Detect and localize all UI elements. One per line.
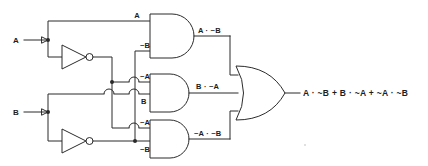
- wire-hop-b-over-notb: [129, 89, 139, 94]
- not-a-to-bot-seg1: [112, 82, 129, 128]
- and-gate-bottom-body: [150, 120, 189, 158]
- and-gate-middle-output-label: B · ~A: [196, 82, 219, 91]
- wire-a-to-inverter: [48, 40, 62, 57]
- logic-circuit-diagram: A ~B ~A B ~A ~B A B A · ~B B · ~A ~A · ~…: [0, 0, 428, 166]
- and-gate-top: [150, 14, 238, 75]
- input-a-label: A: [13, 36, 19, 45]
- label-mid-and-input-2: B: [141, 97, 147, 106]
- input-b-label: B: [13, 108, 19, 117]
- label-top-and-input-2: ~B: [140, 41, 151, 50]
- wire-b-to-inverter: [48, 112, 62, 141]
- inverter-b-bubble-icon: [86, 138, 93, 145]
- input-b-group: [24, 89, 150, 141]
- wire-bot-and-to-or: [230, 111, 238, 139]
- and-gate-middle: [150, 74, 238, 112]
- and-gate-top-output-label: A · ~B: [198, 26, 221, 35]
- wire-a-to-top-and: [48, 21, 150, 40]
- label-mid-and-input-1: ~A: [140, 72, 151, 81]
- wire-hop-not-a-over-notb: [129, 123, 139, 128]
- or-gate-body: [236, 66, 285, 120]
- input-a-group: [24, 21, 150, 57]
- wire-top-and-to-or: [230, 36, 238, 75]
- inverter-b-triangle: [62, 129, 86, 153]
- scan-speck: [304, 144, 306, 146]
- circuit-canvas: A ~B ~A B ~A ~B A B A · ~B B · ~A ~A · ~…: [0, 0, 428, 166]
- and-gate-bottom-output-label: ~A · ~B: [194, 129, 222, 138]
- inverter-a-triangle: [62, 45, 86, 69]
- label-top-and-input-1: A: [134, 11, 140, 20]
- inverter-a: [62, 45, 114, 84]
- label-bot-and-input-1: ~A: [140, 118, 151, 127]
- wire-hop-not-a-over-b: [129, 77, 139, 82]
- wire-b-to-mid-seg1: [48, 94, 104, 112]
- label-bot-and-input-2: ~B: [140, 145, 151, 154]
- inverter-a-bubble-icon: [86, 54, 93, 61]
- inverter-b: [62, 129, 137, 153]
- circuit-output-expression: A · ~B + B · ~A + ~A · ~B: [303, 88, 408, 98]
- and-gate-top-body: [150, 14, 194, 58]
- inverter-a-output-wire: [93, 57, 112, 82]
- or-gate: [236, 66, 300, 120]
- and-gate-middle-body: [150, 74, 189, 112]
